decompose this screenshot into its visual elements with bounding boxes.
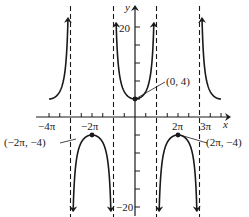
x-axis-label: x xyxy=(222,118,228,130)
point-label-2pi: (2π, −4) xyxy=(206,136,242,149)
x-tick-label-2pi: 2π xyxy=(172,120,184,132)
secant-graph: −4π −2π 2π 3π x y 20 −20 (0, 4) (−2π, −4… xyxy=(0,0,249,217)
key-point-dot xyxy=(176,133,181,138)
leader-neg2pi xyxy=(60,139,76,143)
point-label-0-4: (0, 4) xyxy=(166,75,190,88)
curve-branch xyxy=(49,20,68,99)
point-label-neg2pi: (−2π, −4) xyxy=(4,136,46,149)
curve-branch xyxy=(73,135,111,209)
x-tick-label-3pi: 3π xyxy=(200,120,212,132)
key-point-dot xyxy=(133,97,138,102)
leader-0-4 xyxy=(137,82,165,98)
y-tick-label-20: 20 xyxy=(119,22,131,34)
x-tick-label-neg4pi: −4π xyxy=(38,120,56,132)
y-axis-label: y xyxy=(124,1,130,13)
y-tick-label-neg20: −20 xyxy=(116,201,134,213)
key-point-dot xyxy=(90,133,95,138)
x-tick-label-neg2pi: −2π xyxy=(81,120,99,132)
leader-2pi xyxy=(180,135,207,143)
curve-branch xyxy=(202,20,221,99)
curve-branch xyxy=(159,135,197,209)
